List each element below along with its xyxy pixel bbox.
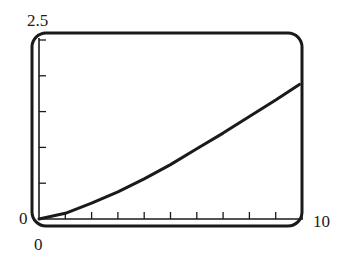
plot-frame xyxy=(32,33,302,226)
data-curve xyxy=(39,84,299,219)
x-min-label: 0 xyxy=(34,236,43,253)
plot-area xyxy=(0,0,354,259)
y-ticks xyxy=(39,40,46,183)
y-min-label: 0 xyxy=(19,210,28,227)
y-max-label: 2.5 xyxy=(27,12,48,29)
x-ticks xyxy=(65,212,302,219)
x-max-label: 10 xyxy=(313,213,330,230)
